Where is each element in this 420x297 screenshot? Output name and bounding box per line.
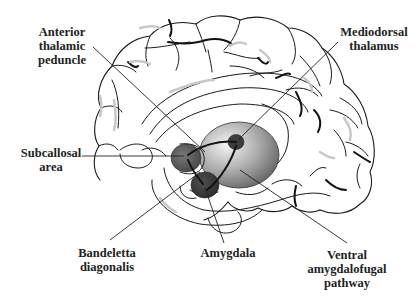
subcallosal-area-region (171, 144, 201, 172)
label-mediodorsal-thalamus: Mediodorsal thalamus (334, 25, 414, 53)
label-subcallosal-area: Subcallosal area (16, 146, 86, 174)
diagram-canvas: Anterior thalamic peduncle Mediodorsal t… (0, 0, 420, 297)
label-bandeletta-diagonalis: Bandeletta diagonalis (74, 246, 140, 274)
label-ventral-amygdalofugal-pathway: Ventral amygdalofugal pathway (302, 248, 392, 290)
leader-mediodorsal-thalamus (238, 42, 338, 140)
leader-bandeletta-diagonalis (110, 172, 200, 240)
label-amygdala: Amygdala (196, 246, 260, 260)
label-anterior-thalamic-peduncle: Anterior thalamic peduncle (34, 25, 90, 67)
brain-outline (94, 16, 374, 220)
leader-amygdala (205, 188, 224, 243)
